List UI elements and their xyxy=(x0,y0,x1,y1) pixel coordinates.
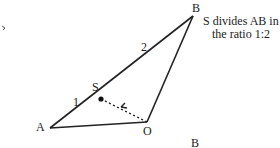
segment-AB xyxy=(50,16,193,128)
label-A: A xyxy=(36,120,45,134)
segment-AO xyxy=(50,122,147,128)
stray-mark xyxy=(2,26,5,30)
label-B: B xyxy=(192,1,200,15)
note-line-2: the ratio 1:2 xyxy=(212,27,270,41)
caption-label: B xyxy=(191,136,199,148)
segment-label-AS: 1 xyxy=(73,95,79,109)
segment-BO xyxy=(147,16,193,122)
vector-diagram: A B O S 1 2 S divides AB in the ratio 1:… xyxy=(0,0,280,148)
segment-OS-dotted xyxy=(101,99,147,122)
note-line-1: S divides AB in xyxy=(203,14,279,28)
label-S: S xyxy=(92,80,99,94)
segment-label-SB: 2 xyxy=(141,40,147,54)
point-S-dot xyxy=(98,96,103,101)
label-O: O xyxy=(143,124,152,138)
arrowhead-icon xyxy=(121,103,127,108)
